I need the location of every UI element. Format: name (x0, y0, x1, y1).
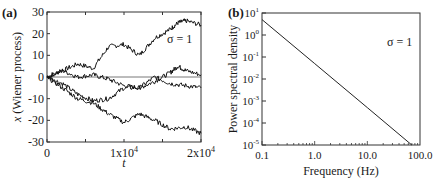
panel-b: (b) 10110010-110-210-310-410-5 0.11.010.… (226, 5, 433, 178)
y-tick-label: -10 (28, 92, 44, 106)
panel-a-annotation: σ = 1 (167, 32, 192, 46)
panel-b-label: (b) (228, 5, 244, 20)
y-tick-label: 0 (38, 70, 44, 84)
panel-a-label: (a) (2, 5, 17, 20)
y-tick-label: 10-2 (242, 72, 259, 85)
panel-b-x-ticks: 0.11.010.0100.0 (255, 141, 433, 161)
y-tick-label: 10-3 (242, 94, 259, 107)
y-tick-label: 100 (245, 28, 260, 41)
x-tick-label: 10.0 (358, 149, 378, 161)
x-tick-label: 100.0 (408, 149, 433, 161)
figure: (a) 3020100-10-20-30 01x1042x104 σ = 1 t… (0, 0, 445, 186)
x-tick-label: 0.1 (255, 149, 269, 161)
x-tick-label: 0 (44, 146, 50, 160)
y-tick-label: 101 (245, 6, 260, 19)
y-tick-label: -20 (28, 113, 44, 127)
y-tick-label: 10 (32, 48, 44, 62)
panel-b-y-label: Power spectral density (226, 25, 240, 134)
y-tick-label: 20 (32, 27, 44, 41)
y-tick-label: 10-4 (242, 116, 259, 129)
panel-b-annotation: σ = 1 (387, 35, 412, 49)
panel-b-x-label: Frequency (Hz) (303, 164, 379, 178)
y-tick-label: -30 (28, 135, 44, 149)
y-tick-label: 10-1 (242, 50, 259, 63)
wiener-path-line (47, 76, 201, 103)
y-tick-label: 30 (32, 5, 44, 19)
panel-a-y-label: x (Wiener process) (10, 32, 24, 123)
x-tick-label: 1.0 (308, 149, 322, 161)
x-tick-label: 2x104 (187, 145, 215, 160)
panel-b-frame (262, 13, 420, 145)
panel-a: (a) 3020100-10-20-30 01x1042x104 σ = 1 t… (2, 5, 215, 170)
